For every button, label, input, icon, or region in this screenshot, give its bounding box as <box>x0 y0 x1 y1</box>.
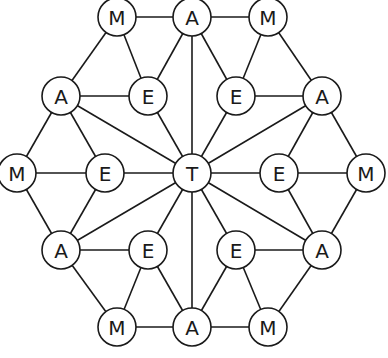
node-label: E <box>142 239 155 263</box>
letter-graph-diagram: MAMAEEAMETEMAEEAMAM <box>0 0 388 358</box>
node-label: A <box>54 239 68 263</box>
node-e2: E <box>217 77 255 115</box>
node-label: A <box>315 85 329 109</box>
node-label: M <box>108 6 125 30</box>
node-m4: M <box>347 154 385 192</box>
node-e4: E <box>260 154 298 192</box>
node-m5: M <box>98 308 136 346</box>
node-label: E <box>99 162 112 186</box>
node-e3: E <box>86 154 124 192</box>
edge-t-a5 <box>192 173 322 250</box>
node-t: T <box>173 154 211 192</box>
node-a2: A <box>42 77 80 115</box>
node-label: A <box>185 316 199 340</box>
node-a6: A <box>173 308 211 346</box>
node-label: M <box>357 162 374 186</box>
node-label: E <box>142 85 155 109</box>
node-m3: M <box>0 154 36 192</box>
node-label: E <box>273 162 286 186</box>
node-label: M <box>259 6 276 30</box>
node-label: T <box>185 162 199 186</box>
node-m1: M <box>98 0 136 36</box>
node-a3: A <box>303 77 341 115</box>
edge-a2-t <box>61 96 192 173</box>
node-label: E <box>230 239 243 263</box>
node-a1: A <box>173 0 211 36</box>
edge-a3-t <box>192 96 322 173</box>
node-a5: A <box>303 231 341 269</box>
node-label: M <box>108 316 125 340</box>
node-e5: E <box>129 231 167 269</box>
node-m2: M <box>249 0 287 36</box>
node-e1: E <box>129 77 167 115</box>
node-label: E <box>230 85 243 109</box>
node-label: M <box>8 162 25 186</box>
node-label: A <box>185 6 199 30</box>
node-e6: E <box>217 231 255 269</box>
node-m6: M <box>249 308 287 346</box>
node-a4: A <box>42 231 80 269</box>
edge-t-a4 <box>61 173 192 250</box>
node-label: A <box>315 239 329 263</box>
node-label: A <box>54 85 68 109</box>
node-label: M <box>259 316 276 340</box>
